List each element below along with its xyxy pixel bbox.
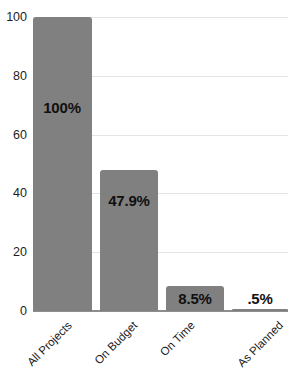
- y-axis-tick-80: 80: [0, 70, 27, 83]
- y-axis-tick-100: 100: [0, 11, 27, 24]
- bar-chart: 100 80 60 40 20 0 100% 47.9% 8.5% .5% Al…: [0, 0, 293, 386]
- x-axis-label-on-time-text: On Time: [158, 319, 197, 358]
- y-axis-tick-40: 40: [0, 187, 27, 200]
- x-axis-category-labels: All Projects On Budget On Time As Planne…: [0, 311, 293, 386]
- value-label-all-projects: 100%: [43, 100, 81, 115]
- x-axis-label-all-projects: All Projects: [25, 319, 74, 368]
- x-axis-label-on-time: On Time: [158, 319, 197, 358]
- plot-area: 100% 47.9% 8.5% .5%: [33, 17, 288, 311]
- x-axis-label-as-planned-text: As Planned: [235, 319, 285, 369]
- x-axis-label-as-planned: As Planned: [235, 319, 285, 369]
- value-label-on-budget: 47.9%: [108, 193, 150, 208]
- bar-all-projects[interactable]: [33, 17, 92, 311]
- y-axis-tick-labels: 100 80 60 40 20 0: [0, 17, 27, 311]
- value-label-as-planned: .5%: [247, 291, 272, 306]
- x-axis-label-all-projects-text: All Projects: [25, 319, 74, 368]
- y-axis-tick-60: 60: [0, 128, 27, 141]
- y-axis-tick-20: 20: [0, 246, 27, 259]
- value-label-on-time: 8.5%: [178, 291, 211, 306]
- x-axis-label-on-budget: On Budget: [92, 319, 139, 366]
- x-axis-label-on-budget-text: On Budget: [92, 319, 139, 366]
